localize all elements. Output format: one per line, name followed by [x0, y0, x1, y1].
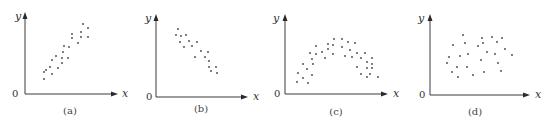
data-point [57, 67, 59, 69]
origin-label: 0 [274, 88, 280, 99]
data-point [459, 55, 461, 57]
data-point [451, 71, 453, 73]
data-point [61, 57, 63, 59]
data-point [377, 76, 379, 78]
data-point [324, 57, 326, 59]
data-point [311, 58, 313, 60]
data-point [369, 73, 371, 75]
data-point [333, 38, 335, 40]
origin-label: 0 [146, 91, 152, 102]
data-point [349, 49, 351, 51]
data-point [351, 56, 353, 58]
data-point [496, 41, 498, 43]
data-point [500, 70, 502, 72]
data-point [71, 33, 73, 35]
data-point [491, 36, 493, 38]
data-point [356, 52, 358, 54]
scatter-panel-d: yx0(d) [417, 12, 542, 117]
data-point [472, 74, 474, 76]
data-point [462, 34, 464, 36]
data-point [200, 50, 202, 52]
data-point [77, 42, 79, 44]
data-point [63, 45, 65, 47]
panel-caption: (a) [63, 105, 77, 116]
data-point [180, 35, 182, 37]
scatter-panel-b: yx0(b) [144, 12, 260, 114]
data-point [309, 52, 311, 54]
data-point [80, 36, 82, 38]
origin-label: 0 [419, 89, 425, 100]
data-point [366, 76, 368, 78]
data-point [504, 48, 506, 50]
panel-caption: (c) [329, 106, 343, 117]
y-axis-label: y [14, 10, 22, 23]
data-point [446, 62, 448, 64]
data-point [208, 66, 210, 68]
data-point [360, 73, 362, 75]
data-point [511, 54, 513, 56]
data-point [297, 72, 299, 74]
y-axis-arrow-icon [23, 12, 28, 19]
data-point [71, 37, 73, 39]
data-point [204, 56, 206, 58]
data-point [179, 41, 181, 43]
data-point [341, 38, 343, 40]
data-point [307, 82, 309, 84]
y-axis-arrow-icon [283, 14, 288, 21]
data-point [185, 34, 187, 36]
data-point [67, 57, 69, 59]
x-axis-label: x [535, 88, 542, 101]
data-point [371, 63, 373, 65]
data-point [87, 36, 89, 38]
y-axis-arrow-icon [154, 14, 159, 21]
data-point [296, 81, 298, 83]
data-point [457, 76, 459, 78]
x-axis-label: x [122, 87, 129, 100]
data-point [371, 57, 373, 59]
data-point [87, 27, 89, 29]
data-point [302, 63, 304, 65]
data-point [55, 55, 57, 57]
data-point [312, 63, 314, 65]
x-axis-label: x [253, 90, 260, 103]
data-point [347, 41, 349, 43]
data-point [464, 42, 466, 44]
data-point [196, 41, 198, 43]
data-point [332, 53, 334, 55]
x-axis-arrow-icon [111, 92, 118, 97]
data-points [43, 23, 89, 80]
data-point [327, 48, 329, 50]
data-point [302, 77, 304, 79]
data-point [315, 53, 317, 55]
data-point [448, 56, 450, 58]
scatter-panel-c: yx0(c) [272, 12, 400, 117]
data-point [188, 40, 190, 42]
data-point [494, 53, 496, 55]
data-point [354, 42, 356, 44]
data-point [456, 66, 458, 68]
data-point [344, 55, 346, 57]
scatter-figure: yx0(a)yx0(b)yx0(c)yx0(d) [0, 0, 554, 129]
panel-caption: (b) [194, 103, 208, 114]
data-point [321, 51, 323, 53]
data-point [483, 71, 485, 73]
x-axis-arrow-icon [381, 92, 388, 97]
x-axis-label: x [393, 87, 400, 100]
data-point [215, 66, 217, 68]
data-points [296, 38, 379, 84]
data-point [82, 23, 84, 25]
data-point [183, 46, 185, 48]
y-axis-label: y [272, 12, 280, 25]
data-point [486, 51, 488, 53]
data-point [51, 59, 53, 61]
data-point [466, 66, 468, 68]
data-point [43, 78, 45, 80]
data-point [332, 44, 334, 46]
data-point [177, 28, 179, 30]
data-point [68, 46, 70, 48]
y-axis-arrow-icon [428, 14, 433, 21]
data-point [497, 62, 499, 64]
data-point [51, 73, 53, 75]
data-point [315, 45, 317, 47]
y-axis-label: y [417, 12, 425, 25]
